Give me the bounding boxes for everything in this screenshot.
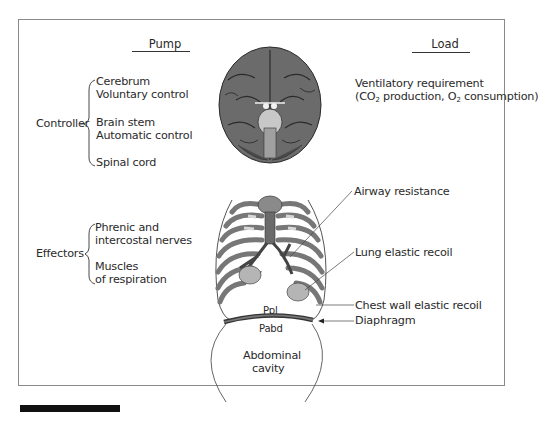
abdominal-cavity-outline-right (305, 324, 322, 402)
rib-cage-illustration (216, 196, 326, 322)
brain-illustration (219, 47, 321, 163)
effectors-brace (85, 224, 95, 284)
abdominal-cavity-outline (211, 324, 226, 402)
figure-caption-bar (20, 405, 120, 412)
lung-recoil-leader (305, 252, 354, 290)
controller-brace (84, 80, 95, 166)
diaphragm-arrowhead (318, 319, 324, 324)
airway-leader (290, 191, 352, 257)
figure-artwork (0, 0, 548, 435)
